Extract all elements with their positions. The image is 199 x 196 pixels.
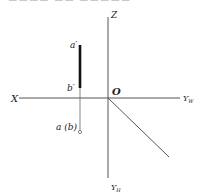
- yh-axis-label: YH: [111, 183, 121, 193]
- z-axis-label: Z: [110, 10, 118, 20]
- origin-label: O: [112, 86, 121, 97]
- point-a-b: [78, 130, 81, 133]
- x-axis-label: X: [10, 93, 19, 104]
- diagonal-line: [108, 98, 169, 157]
- projection-diagram: X Z O YW YH a′ b′ a (b): [0, 0, 199, 196]
- yw-axis-label: YW: [183, 94, 194, 104]
- label-a-prime: a′: [70, 40, 77, 50]
- label-a-b: a (b): [56, 122, 77, 132]
- label-b-prime: b′: [67, 83, 75, 93]
